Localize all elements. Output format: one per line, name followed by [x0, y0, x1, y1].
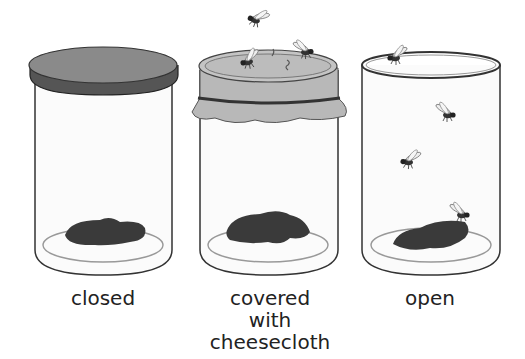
- jar-closed: [29, 47, 178, 275]
- fly-icon: [245, 4, 272, 31]
- label-cheesecloth: covered with cheesecloth: [205, 287, 335, 353]
- cheesecloth-cover: [192, 50, 346, 123]
- label-open: open: [380, 287, 480, 309]
- jar-open: [362, 44, 500, 275]
- jar-cheesecloth: [192, 4, 346, 275]
- lid: [29, 47, 178, 95]
- label-closed: closed: [48, 287, 158, 309]
